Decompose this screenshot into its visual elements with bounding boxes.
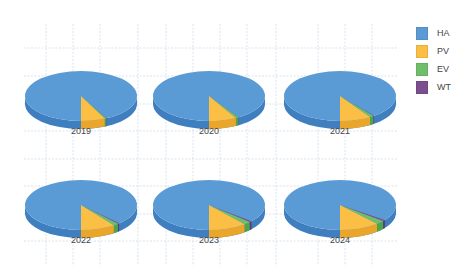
legend-swatch-icon <box>416 27 428 40</box>
legend-label: WT <box>437 82 451 92</box>
legend-swatch-icon <box>416 45 428 58</box>
legend-item-pv[interactable]: PV <box>416 42 451 60</box>
pie-2020: 2020 <box>153 71 265 136</box>
legend-swatch-icon <box>416 81 428 94</box>
pie-2021: 2021 <box>284 71 396 136</box>
legend-item-ev[interactable]: EV <box>416 60 451 78</box>
pie-year-label: 2021 <box>330 126 350 136</box>
pie-charts: 201920202021202220232024 <box>25 71 396 245</box>
legend-label: HA <box>437 28 450 38</box>
legend-item-ha[interactable]: HA <box>416 24 451 42</box>
pie-2024: 2024 <box>284 180 396 245</box>
legend-label: EV <box>437 64 449 74</box>
pie-year-label: 2020 <box>199 126 219 136</box>
chart-legend: HA PV EV WT <box>416 24 451 96</box>
pie-chart-grid: 201920202021202220232024 <box>0 0 466 279</box>
legend-item-wt[interactable]: WT <box>416 78 451 96</box>
pie-2022: 2022 <box>25 180 137 245</box>
pie-year-label: 2019 <box>71 126 91 136</box>
legend-swatch-icon <box>416 63 428 76</box>
pie-year-label: 2022 <box>71 235 91 245</box>
pie-2019: 2019 <box>25 71 137 136</box>
pie-2023: 2023 <box>153 180 265 245</box>
legend-label: PV <box>437 46 449 56</box>
pie-year-label: 2023 <box>199 235 219 245</box>
pie-year-label: 2024 <box>330 235 350 245</box>
